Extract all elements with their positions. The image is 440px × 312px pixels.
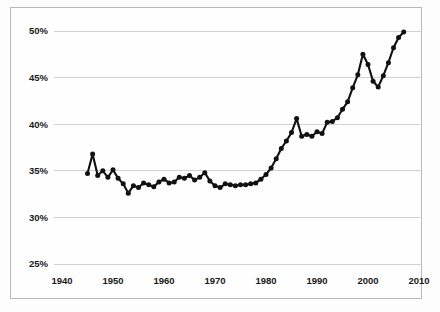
data-point-marker bbox=[162, 177, 167, 182]
data-point-marker bbox=[233, 183, 238, 188]
data-point-marker bbox=[228, 182, 233, 187]
data-point-marker bbox=[95, 173, 100, 178]
chart-container: 25%30%35%40%45%50% 194019501960197019801… bbox=[0, 0, 440, 312]
data-point-marker bbox=[213, 183, 218, 188]
data-point-marker bbox=[284, 138, 289, 143]
data-point-marker bbox=[100, 168, 105, 173]
data-point-marker bbox=[248, 181, 253, 186]
y-tick-label: 30% bbox=[29, 212, 49, 223]
data-point-marker bbox=[335, 115, 340, 120]
x-tick-label: 1950 bbox=[102, 275, 123, 286]
data-point-marker bbox=[223, 181, 228, 186]
data-point-marker bbox=[325, 120, 330, 125]
data-point-marker bbox=[391, 45, 396, 50]
x-tick-label: 2000 bbox=[357, 275, 378, 286]
data-point-marker bbox=[197, 175, 202, 180]
data-point-marker bbox=[350, 85, 355, 90]
y-tick-label: 45% bbox=[29, 72, 49, 83]
data-point-marker bbox=[253, 180, 258, 185]
x-tick-label: 2010 bbox=[408, 275, 429, 286]
data-point-marker bbox=[116, 176, 121, 181]
data-point-marker bbox=[126, 191, 131, 196]
data-point-marker bbox=[345, 99, 350, 104]
data-point-marker bbox=[269, 166, 274, 171]
data-point-marker bbox=[264, 172, 269, 177]
x-axis-tick-labels: 19401950196019701980199020002010 bbox=[51, 275, 429, 286]
data-point-marker bbox=[340, 107, 345, 112]
x-tick-label: 1980 bbox=[255, 275, 276, 286]
data-point-marker bbox=[294, 116, 299, 121]
data-point-marker bbox=[202, 170, 207, 175]
data-point-marker bbox=[207, 179, 212, 184]
data-point-marker bbox=[243, 182, 248, 187]
data-point-marker bbox=[105, 175, 110, 180]
y-tick-label: 50% bbox=[29, 25, 49, 36]
data-point-marker bbox=[131, 183, 136, 188]
data-point-marker bbox=[238, 182, 243, 187]
series-line-share bbox=[88, 32, 404, 193]
data-point-marker bbox=[366, 62, 371, 67]
data-point-marker bbox=[330, 119, 335, 124]
y-tick-label: 25% bbox=[29, 258, 49, 269]
data-point-marker bbox=[90, 152, 95, 157]
chart-plot-area: 25%30%35%40%45%50% 194019501960197019801… bbox=[0, 0, 440, 312]
data-point-marker bbox=[121, 181, 126, 186]
y-axis-tick-labels: 25%30%35%40%45%50% bbox=[29, 25, 49, 269]
data-point-marker bbox=[355, 72, 360, 77]
data-point-marker bbox=[279, 146, 284, 151]
data-point-marker bbox=[146, 182, 151, 187]
data-point-marker bbox=[396, 35, 401, 40]
x-tick-label: 1970 bbox=[204, 275, 225, 286]
data-point-marker bbox=[304, 132, 309, 137]
data-point-marker bbox=[299, 134, 304, 139]
data-point-marker bbox=[111, 167, 116, 172]
data-point-marker bbox=[156, 179, 161, 184]
data-point-marker bbox=[376, 84, 381, 89]
data-point-marker bbox=[315, 129, 320, 134]
data-point-marker bbox=[85, 171, 90, 176]
data-point-marker bbox=[289, 130, 294, 135]
data-point-marker bbox=[151, 184, 156, 189]
data-point-marker bbox=[360, 52, 365, 57]
data-point-marker bbox=[167, 180, 172, 185]
data-point-marker bbox=[192, 178, 197, 183]
data-point-marker bbox=[320, 131, 325, 136]
data-point-marker bbox=[187, 173, 192, 178]
y-tick-label: 40% bbox=[29, 119, 49, 130]
data-point-marker bbox=[258, 177, 263, 182]
data-point-marker bbox=[274, 156, 279, 161]
data-point-marker bbox=[218, 185, 223, 190]
data-point-marker bbox=[401, 29, 406, 34]
x-tick-label: 1960 bbox=[153, 275, 174, 286]
data-series-line bbox=[88, 32, 404, 193]
y-tick-label: 35% bbox=[29, 165, 49, 176]
data-point-marker bbox=[309, 134, 314, 139]
data-point-marker bbox=[177, 175, 182, 180]
x-tick-label: 1940 bbox=[51, 275, 72, 286]
data-point-marker bbox=[136, 185, 141, 190]
data-point-marker bbox=[371, 79, 376, 84]
data-point-marker bbox=[381, 73, 386, 78]
data-point-marker bbox=[141, 180, 146, 185]
x-tick-label: 1990 bbox=[306, 275, 327, 286]
data-point-marker bbox=[182, 176, 187, 181]
data-point-marker bbox=[172, 179, 177, 184]
data-point-marker bbox=[386, 60, 391, 65]
